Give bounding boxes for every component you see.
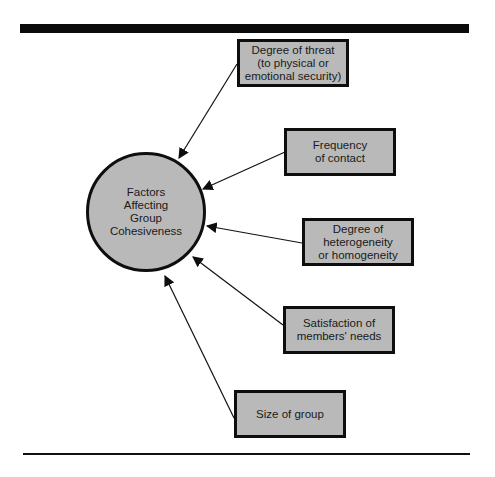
arrow-heterogeneity: [207, 226, 302, 243]
center-node: Factors Affecting Group Cohesiveness: [86, 152, 206, 272]
center-node-label: Factors Affecting Group Cohesiveness: [96, 186, 196, 238]
factor-box-size: Size of group: [234, 390, 346, 438]
factor-box-threat: Degree of threat (to physical or emotion…: [237, 39, 349, 87]
factor-label: Size of group: [256, 408, 324, 421]
factor-box-heterogeneity: Degree of heterogeneity or homogeneity: [302, 218, 414, 266]
arrow-frequency: [203, 152, 285, 189]
factor-box-frequency: Frequency of contact: [284, 128, 396, 176]
factor-label: Degree of heterogeneity or homogeneity: [318, 223, 397, 262]
arrow-threat: [179, 64, 237, 158]
arrow-satisfaction: [193, 257, 283, 325]
factor-label: Degree of threat (to physical or emotion…: [245, 44, 342, 83]
factor-label: Frequency of contact: [313, 139, 367, 165]
arrow-size: [165, 276, 234, 418]
bottom-rule: [23, 453, 470, 455]
factor-label: Satisfaction of members' needs: [297, 317, 382, 343]
factor-box-satisfaction: Satisfaction of members' needs: [283, 306, 395, 354]
